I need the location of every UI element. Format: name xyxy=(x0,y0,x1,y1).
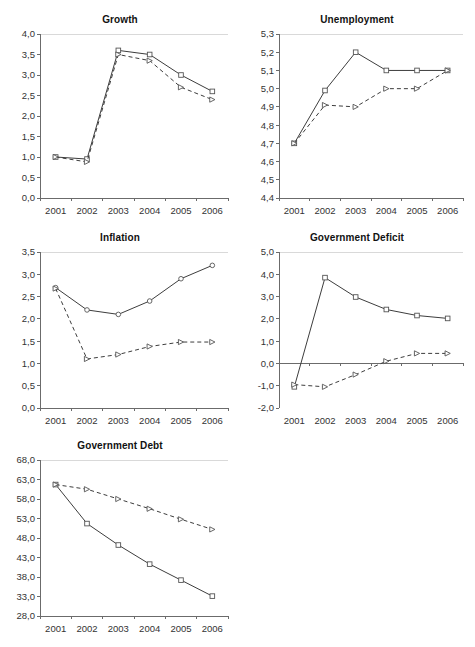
x-tick-label: 2004 xyxy=(376,205,397,216)
chart-panel-unemployment: Unemployment4,44,54,64,74,84,95,05,15,25… xyxy=(243,14,471,226)
x-tick-label: 2002 xyxy=(314,415,335,426)
y-tick-label: 0,0 xyxy=(22,402,35,413)
x-tick-label: 2001 xyxy=(284,415,305,426)
y-tick-label: 4,8 xyxy=(261,120,274,131)
y-tick-label: 1,5 xyxy=(22,131,35,142)
x-tick-label: 2005 xyxy=(170,415,191,426)
y-tick-label: 3,5 xyxy=(22,246,35,257)
x-tick-label: 2006 xyxy=(202,623,223,634)
x-tick-label: 2003 xyxy=(345,205,366,216)
y-tick-label: 38,0 xyxy=(17,571,36,582)
x-tick-label: 2001 xyxy=(284,205,305,216)
x-tick-label: 2001 xyxy=(45,623,66,634)
y-tick-label: 2,0 xyxy=(261,313,274,324)
y-tick-label: 3,0 xyxy=(261,291,274,302)
x-tick-label: 2002 xyxy=(314,205,335,216)
x-tick-label: 2004 xyxy=(139,415,160,426)
y-tick-label: 4,0 xyxy=(22,28,35,39)
y-tick-label: 28,0 xyxy=(17,610,36,621)
x-tick-label: 2001 xyxy=(45,205,66,216)
x-tick-label: 2006 xyxy=(202,415,223,426)
x-tick-label: 2001 xyxy=(45,415,66,426)
y-tick-label: 0,0 xyxy=(22,192,35,203)
y-tick-label: 2,0 xyxy=(22,313,35,324)
y-tick-label: 5,0 xyxy=(261,83,274,94)
y-tick-label: -1,0 xyxy=(258,380,274,391)
y-tick-label: 3,0 xyxy=(22,269,35,280)
y-tick-label: 33,0 xyxy=(17,591,36,602)
chart-plot-government-deficit: -2,0-1,00,01,02,03,04,05,020012002200320… xyxy=(243,244,471,434)
chart-panel-government-deficit: Government Deficit-2,0-1,00,01,02,03,04,… xyxy=(243,232,471,436)
y-tick-label: 53,0 xyxy=(17,513,36,524)
y-tick-label: 2,0 xyxy=(22,110,35,121)
y-tick-label: 1,0 xyxy=(261,336,274,347)
x-tick-label: 2002 xyxy=(76,623,97,634)
x-tick-label: 2003 xyxy=(345,415,366,426)
x-tick-label: 2004 xyxy=(376,415,397,426)
y-tick-label: 1,0 xyxy=(22,358,35,369)
y-tick-label: 1,0 xyxy=(22,151,35,162)
x-tick-label: 2004 xyxy=(139,205,160,216)
y-tick-label: 3,5 xyxy=(22,49,35,60)
y-tick-label: 68,0 xyxy=(17,454,36,465)
y-tick-label: 3,0 xyxy=(22,69,35,80)
y-tick-label: 4,0 xyxy=(261,269,274,280)
x-tick-label: 2005 xyxy=(170,623,191,634)
x-tick-label: 2003 xyxy=(108,415,129,426)
y-tick-label: 63,0 xyxy=(17,474,36,485)
y-tick-label: 2,5 xyxy=(22,291,35,302)
y-tick-label: -2,0 xyxy=(258,402,274,413)
chart-title-growth: Growth xyxy=(4,14,236,26)
y-tick-label: 4,7 xyxy=(261,138,274,149)
x-tick-label: 2004 xyxy=(139,623,160,634)
y-tick-label: 5,3 xyxy=(261,28,274,39)
y-tick-label: 48,0 xyxy=(17,532,36,543)
y-tick-label: 2,5 xyxy=(22,90,35,101)
x-tick-label: 2005 xyxy=(406,205,427,216)
y-tick-label: 5,0 xyxy=(261,246,274,257)
x-tick-label: 2002 xyxy=(76,415,97,426)
y-tick-label: 0,0 xyxy=(261,358,274,369)
y-tick-label: 43,0 xyxy=(17,552,36,563)
chart-plot-government-debt: 28,033,038,043,048,053,058,063,068,02001… xyxy=(4,452,236,642)
chart-plot-unemployment: 4,44,54,64,74,84,95,05,15,25,32001200220… xyxy=(243,26,471,224)
chart-title-unemployment: Unemployment xyxy=(243,14,471,26)
y-tick-label: 5,2 xyxy=(261,47,274,58)
chart-panel-inflation: Inflation0,00,51,01,52,02,53,03,52001200… xyxy=(4,232,236,436)
y-tick-label: 4,5 xyxy=(261,174,274,185)
y-tick-label: 1,5 xyxy=(22,336,35,347)
x-tick-label: 2005 xyxy=(406,415,427,426)
y-tick-label: 4,9 xyxy=(261,101,274,112)
y-tick-label: 0,5 xyxy=(22,172,35,183)
chart-title-government-debt: Government Debt xyxy=(4,440,236,452)
y-tick-label: 4,4 xyxy=(261,192,274,203)
x-tick-label: 2006 xyxy=(437,415,458,426)
chart-panel-growth: Growth0,00,51,01,52,02,53,03,54,02001200… xyxy=(4,14,236,226)
x-tick-label: 2002 xyxy=(76,205,97,216)
figure-grid: Growth0,00,51,01,52,02,53,03,54,02001200… xyxy=(0,0,475,647)
x-tick-label: 2003 xyxy=(108,205,129,216)
chart-plot-growth: 0,00,51,01,52,02,53,03,54,02001200220032… xyxy=(4,26,236,224)
chart-title-inflation: Inflation xyxy=(4,232,236,244)
x-tick-label: 2006 xyxy=(202,205,223,216)
x-tick-label: 2006 xyxy=(437,205,458,216)
x-tick-label: 2003 xyxy=(108,623,129,634)
y-tick-label: 58,0 xyxy=(17,493,36,504)
chart-plot-inflation: 0,00,51,01,52,02,53,03,52001200220032004… xyxy=(4,244,236,434)
y-tick-label: 0,5 xyxy=(22,380,35,391)
chart-title-government-deficit: Government Deficit xyxy=(243,232,471,244)
x-tick-label: 2005 xyxy=(170,205,191,216)
chart-panel-government-debt: Government Debt28,033,038,043,048,053,05… xyxy=(4,440,236,644)
y-tick-label: 5,1 xyxy=(261,65,274,76)
y-tick-label: 4,6 xyxy=(261,156,274,167)
